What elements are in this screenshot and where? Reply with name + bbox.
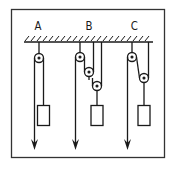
system-label-c: C <box>131 20 138 32</box>
pulley-diagram: A B C <box>0 0 169 176</box>
pulley-system-a <box>31 42 50 150</box>
system-label-b: B <box>86 20 93 32</box>
load-weight-a <box>38 106 50 126</box>
pulley-diagram-svg <box>0 0 169 176</box>
ceiling-hatching <box>25 36 149 41</box>
pulley-system-b <box>72 42 103 150</box>
load-weight-b <box>91 106 103 126</box>
pulley-system-c <box>124 42 150 150</box>
load-weight-c <box>138 106 150 126</box>
system-label-a: A <box>35 20 42 32</box>
